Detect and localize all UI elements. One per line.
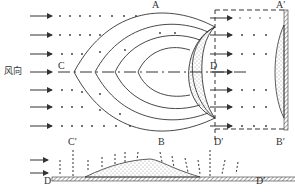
label-c: C: [58, 61, 65, 71]
label-b-prime: B′: [276, 137, 285, 147]
label-c-prime: C′: [68, 137, 77, 147]
label-d-prime: D′: [214, 137, 223, 147]
wind-direction-label: 风向: [4, 67, 22, 76]
label-d: D: [210, 61, 217, 71]
label-d-prime-bottom: D′: [256, 176, 265, 186]
label-a: A: [152, 0, 159, 10]
diagram-graphic: [0, 0, 295, 192]
barchan-dune-diagram: A A′ C D 风向 C′ B D′ B′ D D′: [0, 0, 295, 192]
label-a-prime: A′: [276, 0, 285, 10]
wind-arrows: [30, 16, 52, 126]
label-d-bottom: D: [44, 176, 51, 186]
label-b: B: [158, 137, 165, 147]
